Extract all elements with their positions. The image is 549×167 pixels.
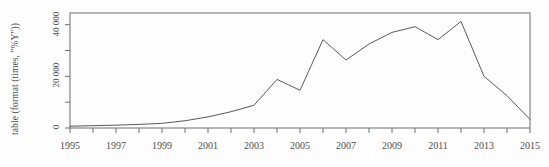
plot-frame-rect (70, 13, 530, 128)
x-tick-label: 2015 (510, 140, 549, 151)
y-axis-ticks (65, 25, 70, 128)
x-tick-label: 2013 (464, 140, 504, 151)
y-tick-label: 20 000 (51, 50, 61, 100)
plot-frame (70, 13, 530, 128)
x-tick-label: 1997 (96, 140, 136, 151)
x-tick-label: 2011 (418, 140, 458, 151)
x-tick-label: 2007 (326, 140, 366, 151)
x-axis-ticks (70, 128, 530, 133)
x-tick-label: 2005 (280, 140, 320, 151)
data-series-line (70, 22, 530, 127)
x-tick-label: 2003 (234, 140, 274, 151)
x-tick-label: 2001 (188, 140, 228, 151)
x-tick-label: 2009 (372, 140, 412, 151)
x-tick-label: 1995 (50, 140, 90, 151)
chart-figure: table (format (times, "%Y")) 020 00040 0… (0, 0, 549, 167)
x-tick-label: 1999 (142, 140, 182, 151)
y-tick-label: 40 000 (51, 0, 61, 49)
